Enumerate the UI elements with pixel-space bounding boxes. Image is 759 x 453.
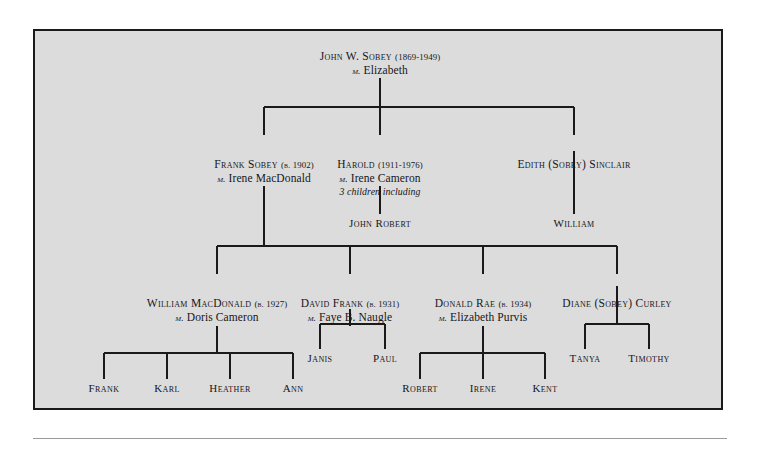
marriage-prefix: m. <box>352 66 360 76</box>
node-frank-sobey: Frank Sobey (b. 1902) m. Irene MacDonald <box>214 157 313 186</box>
node-john-w-sobey: John W. Sobey (1869-1949) m. Elizabeth <box>320 49 440 78</box>
node-william: William <box>553 217 594 229</box>
diagram-canvas: John W. Sobey (1869-1949) m. Elizabeth F… <box>35 31 721 408</box>
node-irene: Irene <box>470 382 497 394</box>
person-spouse-line: m. Irene Cameron <box>337 171 423 186</box>
person-years: (1869-1949) <box>395 52 440 62</box>
node-ann: Ann <box>283 382 304 394</box>
spouse-name: Elizabeth <box>364 64 408 76</box>
person-note: 3 children including <box>337 186 423 198</box>
person-spouse-line: m. Doris Cameron <box>147 310 287 325</box>
node-robert: Robert <box>402 382 437 394</box>
person-name: Donald Rae (b. 1934) <box>435 296 531 310</box>
family-tree-figure: John W. Sobey (1869-1949) m. Elizabeth F… <box>0 0 759 453</box>
node-donald-rae: Donald Rae (b. 1934) m. Elizabeth Purvis <box>435 296 531 325</box>
node-frank: Frank <box>89 382 120 394</box>
node-harold: Harold (1911-1976) m. Irene Cameron 3 ch… <box>337 157 423 198</box>
person-name: David Frank (b. 1931) <box>301 296 399 310</box>
marriage-prefix: m. <box>175 313 183 323</box>
person-name: William MacDonald (b. 1927) <box>147 296 287 310</box>
person-spouse-line: m. Elizabeth <box>320 63 440 78</box>
spouse-name: Irene MacDonald <box>229 172 311 184</box>
spouse-name: Elizabeth Purvis <box>450 311 527 323</box>
node-william-macdonald: William MacDonald (b. 1927) m. Doris Cam… <box>147 296 287 325</box>
person-spouse-line: m. Elizabeth Purvis <box>435 310 531 325</box>
spouse-name: Irene Cameron <box>351 172 421 184</box>
spouse-name: Doris Cameron <box>187 311 259 323</box>
node-john-robert: John Robert <box>349 217 411 229</box>
node-david-frank: David Frank (b. 1931) m. Faye B. Naugle <box>301 296 399 325</box>
node-diane-sobey-curley: Diane (Sobey) Curley <box>562 296 671 310</box>
person-name: Diane (Sobey) Curley <box>562 296 671 310</box>
footer-rule <box>33 438 727 439</box>
person-name: Frank Sobey (b. 1902) <box>214 157 313 171</box>
person-name: Edith (Sobey) Sinclair <box>517 157 630 171</box>
marriage-prefix: m. <box>308 313 316 323</box>
node-tanya: Tanya <box>570 352 601 364</box>
node-edith-sobey-sinclair: Edith (Sobey) Sinclair <box>517 157 630 171</box>
marriage-prefix: m. <box>217 174 225 184</box>
node-kent: Kent <box>532 382 557 394</box>
node-paul: Paul <box>373 352 397 364</box>
person-years: (b. 1934) <box>498 299 531 309</box>
node-heather: Heather <box>209 382 250 394</box>
node-janis: Janis <box>308 352 333 364</box>
person-spouse-line: m. Irene MacDonald <box>214 171 313 186</box>
person-years: (1911-1976) <box>378 160 423 170</box>
person-spouse-line: m. Faye B. Naugle <box>301 310 399 325</box>
person-years: (b. 1902) <box>281 160 314 170</box>
marriage-prefix: m. <box>339 174 347 184</box>
node-timothy: Timothy <box>628 352 670 364</box>
spouse-name: Faye B. Naugle <box>319 311 392 323</box>
person-name: Harold (1911-1976) <box>337 157 423 171</box>
person-name: John W. Sobey (1869-1949) <box>320 49 440 63</box>
person-years: (b. 1927) <box>254 299 287 309</box>
node-karl: Karl <box>154 382 180 394</box>
person-years: (b. 1931) <box>366 299 399 309</box>
marriage-prefix: m. <box>439 313 447 323</box>
diagram-panel: John W. Sobey (1869-1949) m. Elizabeth F… <box>33 29 723 410</box>
